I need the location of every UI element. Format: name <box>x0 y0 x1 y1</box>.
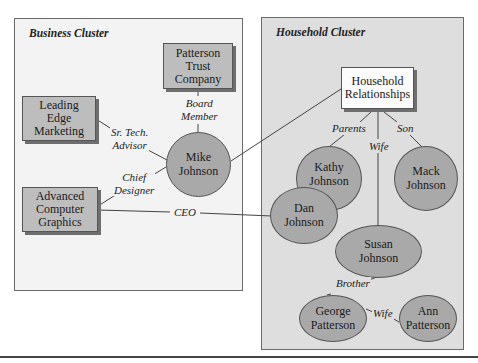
kathy-johnson-label: Kathy Johnson <box>309 161 348 188</box>
george-patterson-label: George Patterson <box>311 305 356 332</box>
person-node-george-patterson[interactable]: George Patterson <box>299 295 367 342</box>
household-relationships-label: Household Relationships <box>345 75 410 101</box>
leading-edge-marketing-box[interactable]: Leading Edge Marketing <box>22 96 96 141</box>
relationship-label-ceo: CEO <box>173 206 197 219</box>
dan-johnson-label: Dan Johnson <box>284 202 323 229</box>
household-relationships-box[interactable]: Household Relationships <box>341 67 414 109</box>
relationship-label-chief-designer: Chief Designer <box>113 171 155 196</box>
person-node-ann-patterson[interactable]: Ann Patterson <box>399 295 457 342</box>
relationship-label-brother: Brother <box>335 277 371 290</box>
person-node-dan-johnson[interactable]: Dan Johnson <box>270 187 338 244</box>
mike-johnson-label: Mike Johnson <box>179 151 218 178</box>
leading-edge-marketing-label: Leading Edge Marketing <box>34 99 84 138</box>
relationship-label-board-member: Board Member <box>180 97 219 122</box>
relationship-label-wife-household: Wife <box>368 140 390 153</box>
relationship-label-son: Son <box>396 122 415 135</box>
patterson-trust-company-label: Patterson Trust Company <box>175 47 222 86</box>
susan-johnson-label: Susan Johnson <box>359 238 398 265</box>
advanced-computer-graphics-box[interactable]: Advanced Computer Graphics <box>22 187 98 232</box>
relationship-label-parents: Parents <box>331 122 367 135</box>
advanced-computer-graphics-label: Advanced Computer Graphics <box>36 190 85 229</box>
patterson-trust-company-box[interactable]: Patterson Trust Company <box>163 43 233 89</box>
mack-johnson-label: Mack Johnson <box>406 165 445 192</box>
ann-patterson-label: Ann Patterson <box>406 305 451 332</box>
person-node-mike-johnson[interactable]: Mike Johnson <box>166 132 231 197</box>
bottom-divider <box>0 356 478 358</box>
person-node-susan-johnson[interactable]: Susan Johnson <box>335 225 422 278</box>
relationship-label-sr-tech-advisor: Sr. Tech. Advisor <box>110 126 149 151</box>
person-node-mack-johnson[interactable]: Mack Johnson <box>394 146 458 211</box>
relationship-label-wife-george: Wife <box>372 307 394 320</box>
